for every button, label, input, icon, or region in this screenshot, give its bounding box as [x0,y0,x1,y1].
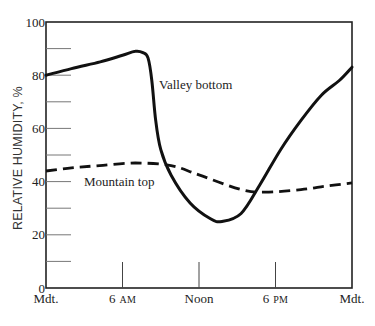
x-tick-labels: Mdt.6AMNoon6PMMdt. [34,291,365,306]
y-axis-title: RELATIVE HUMIDITY, % [11,86,25,230]
y-tick-label: 20 [32,227,45,242]
x-tick-marks [123,262,276,288]
x-tick-label: Mdt. [340,291,365,306]
y-tick-label: 100 [26,15,46,30]
y-tick-label: 40 [32,174,45,189]
x-tick-label: 6PM [263,291,289,306]
mountain-top-label: Mountain top [84,174,154,189]
y-tick-labels: 020406080100 [26,15,46,296]
plot-frame [46,22,352,288]
y-tick-label: 60 [32,121,45,136]
x-tick-label: 6AM [109,291,136,306]
x-tick-label: Mdt. [34,291,59,306]
x-tick-label: Noon [185,291,214,306]
y-tick-label: 80 [32,68,45,83]
valley-bottom-label: Valley bottom [159,77,232,92]
humidity-chart: 020406080100 Mdt.6AMNoon6PMMdt. Valley b… [0,0,375,326]
y-minor-ticks [46,49,71,262]
